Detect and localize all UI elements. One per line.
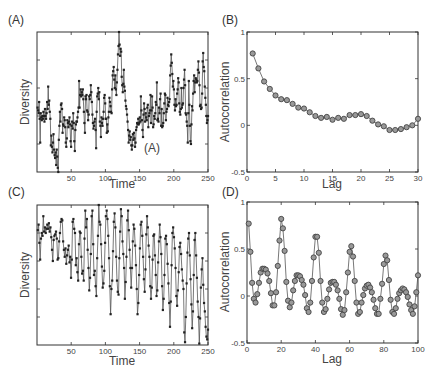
- data-point: [50, 135, 52, 137]
- panel-d-xlabel: Lag: [322, 352, 342, 366]
- data-point: [84, 210, 86, 212]
- data-point: [44, 115, 46, 117]
- data-point: [71, 259, 73, 261]
- data-point: [124, 100, 126, 102]
- data-point: [333, 282, 338, 287]
- data-point: [136, 313, 138, 315]
- data-point: [65, 263, 67, 265]
- y-tick-label: 1: [241, 198, 246, 207]
- data-point: [198, 84, 200, 86]
- data-point: [76, 116, 78, 118]
- data-point: [66, 137, 68, 139]
- data-point: [72, 218, 74, 220]
- data-point: [262, 79, 267, 84]
- data-point: [63, 116, 65, 118]
- y-tick-label: 0.5: [234, 75, 246, 84]
- data-point: [106, 123, 108, 125]
- data-point: [170, 53, 172, 55]
- data-point: [301, 282, 306, 287]
- data-point: [159, 98, 161, 100]
- data-point: [101, 125, 103, 127]
- data-point: [410, 123, 415, 128]
- panel-a: (A) 50100150200250 Time Diversity (A): [8, 13, 215, 191]
- data-point: [89, 277, 91, 279]
- data-point: [290, 101, 295, 106]
- data-point: [120, 208, 122, 210]
- data-point: [253, 300, 258, 305]
- data-point: [187, 142, 189, 144]
- data-point: [141, 129, 143, 131]
- data-point: [115, 88, 117, 90]
- data-point: [74, 232, 76, 234]
- data-point: [197, 69, 199, 71]
- data-point: [330, 117, 335, 122]
- data-point: [106, 210, 108, 212]
- data-point: [40, 238, 42, 240]
- data-point: [83, 122, 85, 124]
- panel-a-annotation: (A): [144, 141, 160, 155]
- data-point: [55, 164, 57, 166]
- data-point: [119, 55, 121, 57]
- data-point: [95, 295, 97, 297]
- data-point: [395, 296, 400, 301]
- data-point: [88, 114, 90, 116]
- data-point: [158, 107, 160, 109]
- data-point: [138, 274, 140, 276]
- y-tick-label: -0.5: [231, 168, 245, 177]
- data-point: [185, 114, 187, 116]
- data-point: [388, 297, 393, 302]
- data-point: [99, 224, 101, 226]
- data-point: [179, 242, 181, 244]
- data-point: [87, 111, 89, 113]
- data-point: [268, 291, 273, 296]
- data-point: [309, 278, 314, 283]
- data-point: [39, 142, 41, 144]
- data-point: [206, 122, 208, 124]
- data-point: [82, 270, 84, 272]
- data-point: [130, 136, 132, 138]
- data-point: [205, 326, 207, 328]
- data-point: [143, 278, 145, 280]
- data-point: [279, 216, 284, 221]
- data-point: [75, 264, 77, 266]
- data-point: [337, 296, 342, 301]
- data-point: [134, 142, 136, 144]
- x-tick-label: 200: [167, 174, 181, 183]
- data-point: [187, 112, 189, 114]
- data-point: [81, 273, 83, 275]
- data-point: [116, 280, 118, 282]
- data-point: [82, 98, 84, 100]
- data-point: [202, 284, 204, 286]
- series-line: [38, 32, 209, 172]
- data-point: [93, 121, 95, 123]
- data-point: [176, 305, 178, 307]
- data-point: [121, 215, 123, 217]
- data-point: [301, 106, 306, 111]
- data-point: [53, 154, 55, 156]
- data-point: [120, 51, 122, 53]
- data-point: [359, 300, 364, 305]
- panel-d-plot: 020406080100-0.500.51: [231, 198, 425, 354]
- data-point: [187, 238, 189, 240]
- data-point: [154, 118, 156, 120]
- data-point: [398, 126, 403, 131]
- data-point: [120, 48, 122, 50]
- data-point: [123, 267, 125, 269]
- data-point: [136, 126, 138, 128]
- data-point: [106, 218, 108, 220]
- data-point: [199, 317, 201, 319]
- data-point: [142, 256, 144, 258]
- data-point: [55, 151, 57, 153]
- data-point: [379, 281, 384, 286]
- data-point: [174, 247, 176, 249]
- data-point: [284, 279, 289, 284]
- data-point: [165, 235, 167, 237]
- data-point: [51, 151, 53, 153]
- data-point: [146, 215, 148, 217]
- data-point: [156, 81, 158, 83]
- data-point: [47, 86, 49, 88]
- data-point: [145, 116, 147, 118]
- data-point: [61, 219, 63, 221]
- data-point: [175, 295, 177, 297]
- data-point: [171, 62, 173, 64]
